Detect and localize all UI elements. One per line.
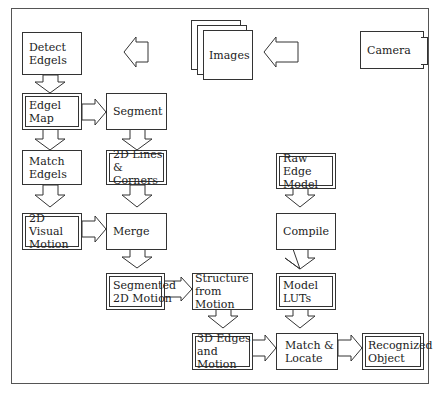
node-2d-visual-motion-label: 2D Visual Motion bbox=[29, 212, 81, 251]
arrow-merge-to-segmented bbox=[122, 249, 152, 268]
node-edgel-map-label: Edgel Map bbox=[29, 99, 81, 125]
node-camera: Camera bbox=[360, 31, 424, 69]
node-merge: Merge bbox=[106, 213, 167, 250]
arrow-edgelmap-to-segment bbox=[82, 99, 106, 125]
node-model-luts-label: Model LUTs bbox=[283, 279, 318, 305]
node-images-label: Images bbox=[209, 49, 250, 62]
node-images: Images bbox=[203, 30, 253, 80]
node-detect-edgels: Detect Edgels bbox=[22, 32, 82, 75]
node-segmented-2d-motion: Segmented 2D Motion bbox=[106, 273, 165, 310]
node-detect-edgels-label: Detect Edgels bbox=[29, 41, 67, 67]
arrow-edgelmap-to-match bbox=[35, 128, 65, 150]
node-2d-lines-corners: 2D Lines & Corners bbox=[106, 150, 167, 185]
node-raw-edge-model: Raw Edge Model bbox=[276, 153, 336, 189]
node-match-edgels-label: Match Edgels bbox=[29, 155, 67, 181]
arrow-match-to-visual bbox=[35, 185, 65, 207]
node-model-luts: Model LUTs bbox=[276, 273, 336, 310]
node-match-locate-label: Match & Locate bbox=[285, 339, 334, 365]
node-3d-edges-motion: 3D Edges and Motion bbox=[192, 333, 253, 370]
camera-lens bbox=[421, 37, 428, 65]
arrow-compile-to-luts bbox=[285, 249, 315, 269]
node-match-edgels: Match Edgels bbox=[22, 150, 82, 185]
node-structure-from-motion: Structure from Motion bbox=[192, 273, 253, 310]
node-recognized-object: Recognized Object bbox=[362, 333, 424, 370]
arrow-match-to-recognized bbox=[338, 335, 362, 361]
arrow-images-to-detect bbox=[124, 37, 148, 67]
node-recognized-object-label: Recognized Object bbox=[368, 339, 433, 365]
node-segment: Segment bbox=[106, 93, 167, 130]
node-compile-label: Compile bbox=[283, 225, 329, 238]
arrow-3d-to-match bbox=[252, 335, 276, 361]
node-compile: Compile bbox=[276, 213, 336, 250]
node-raw-edge-model-label: Raw Edge Model bbox=[283, 152, 335, 191]
node-segmented-2d-motion-label: Segmented 2D Motion bbox=[113, 279, 176, 305]
node-2d-visual-motion: 2D Visual Motion bbox=[22, 213, 82, 250]
arrow-detect-to-edgelmap bbox=[35, 75, 65, 93]
node-3d-edges-motion-label: 3D Edges and Motion bbox=[197, 332, 252, 371]
arrow-segment-to-lines bbox=[122, 128, 152, 150]
node-match-locate: Match & Locate bbox=[276, 333, 338, 370]
node-2d-lines-corners-label: 2D Lines & Corners bbox=[113, 148, 166, 187]
arrow-camera-to-images bbox=[264, 37, 298, 67]
arrow-lines-to-merge bbox=[122, 185, 152, 207]
node-camera-label: Camera bbox=[367, 44, 411, 57]
node-structure-from-motion-label: Structure from Motion bbox=[195, 272, 252, 311]
arrow-luts-to-match bbox=[285, 307, 315, 328]
arrow-visual-to-merge bbox=[82, 216, 106, 242]
node-merge-label: Merge bbox=[113, 225, 150, 238]
node-edgel-map: Edgel Map bbox=[22, 93, 82, 130]
node-segment-label: Segment bbox=[113, 105, 163, 118]
